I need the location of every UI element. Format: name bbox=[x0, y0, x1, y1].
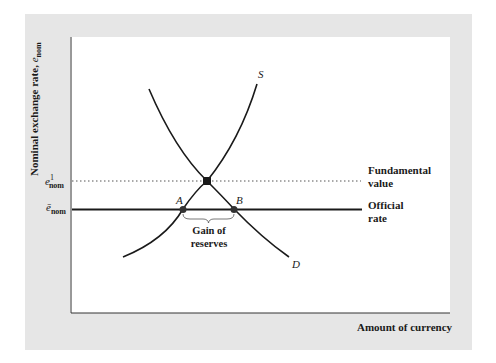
official-rate-label: Official rate bbox=[368, 199, 403, 225]
supply-label: S bbox=[258, 68, 264, 81]
point-a-label: A bbox=[176, 194, 183, 207]
official-rate-label-line2: rate bbox=[368, 212, 403, 225]
gain-of-reserves-label: Gain of reserves bbox=[183, 224, 235, 250]
tick-ebar-sub: nom bbox=[51, 207, 66, 216]
fundamental-value-label-line2: value bbox=[368, 177, 431, 190]
fundamental-value-label: Fundamental value bbox=[368, 164, 431, 190]
y-axis-sub: nom bbox=[34, 42, 43, 57]
y-axis-label: Nominal exchange rate, enom bbox=[28, 42, 43, 176]
fundamental-value-label-line1: Fundamental bbox=[368, 164, 431, 177]
tick-ebar-nom: ēnom bbox=[46, 201, 66, 216]
point-b-marker bbox=[231, 206, 238, 213]
official-rate-label-line1: Official bbox=[368, 199, 403, 212]
tick-e1-nom: e1nom bbox=[45, 173, 69, 190]
gain-of-reserves-line1: Gain of bbox=[183, 224, 235, 237]
y-axis-var: e bbox=[28, 57, 40, 62]
tick-e1-sub: nom bbox=[49, 181, 64, 190]
point-a-marker bbox=[180, 206, 187, 213]
equilibrium-point bbox=[203, 177, 211, 185]
x-axis-label: Amount of currency bbox=[357, 321, 452, 334]
gain-of-reserves-line2: reserves bbox=[183, 237, 235, 250]
y-axis-label-text: Nominal exchange rate, bbox=[28, 62, 40, 176]
gain-of-reserves-brace bbox=[183, 214, 234, 223]
point-b-label: B bbox=[236, 194, 243, 207]
demand-label: D bbox=[292, 258, 300, 271]
